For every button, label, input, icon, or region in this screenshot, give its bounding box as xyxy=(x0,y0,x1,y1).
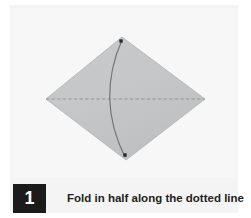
step-number-badge: 1 xyxy=(13,184,46,213)
caption-label: Fold in half along the dotted line xyxy=(67,185,242,211)
instruction-figure: 1 Fold in half along the dotted line xyxy=(0,0,251,218)
corner-dot-top xyxy=(119,39,122,42)
caption-row: 1 Fold in half along the dotted line xyxy=(0,180,251,218)
paper-sheet xyxy=(46,37,205,160)
corner-dot-bottom xyxy=(123,153,126,156)
